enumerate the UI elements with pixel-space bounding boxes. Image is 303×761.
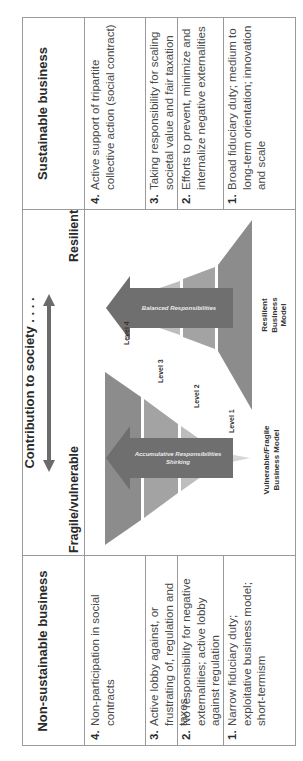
shirking-arrow-text: Accumulative Responsibilities Shirking xyxy=(128,450,228,466)
balanced-arrow-text: Balanced Responsibilities xyxy=(129,304,229,312)
pyramid-diagram xyxy=(0,0,303,761)
level-1-label: Level 1 xyxy=(228,409,235,433)
double-arrow-icon xyxy=(43,294,55,472)
level-4-label: Level 4 xyxy=(123,321,130,345)
rotated-page: Non-sustainable business Contribution to… xyxy=(0,0,303,761)
level-3-label: Level 3 xyxy=(157,359,164,383)
resilient-pyramid xyxy=(105,220,252,410)
resilient-model-label: Resilient Business Model xyxy=(260,287,289,343)
level-2-label: Level 2 xyxy=(193,384,200,408)
fragile-model-label: Vulnerable/Fragile Business Model xyxy=(262,417,281,503)
